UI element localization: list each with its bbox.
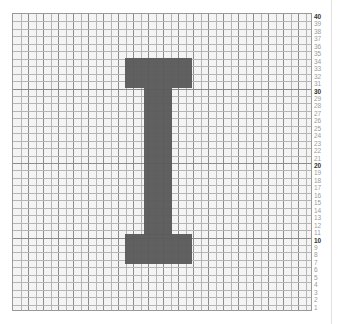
row-label: 27 bbox=[314, 110, 330, 117]
row-label: 29 bbox=[314, 95, 330, 102]
grid-row-line bbox=[13, 44, 311, 45]
row-label: 8 bbox=[314, 251, 330, 258]
letter-top-bar bbox=[125, 58, 192, 88]
row-label: 25 bbox=[314, 125, 330, 132]
grid-row-line bbox=[13, 36, 311, 37]
row-label: 13 bbox=[314, 214, 330, 221]
row-label: 12 bbox=[314, 222, 330, 229]
row-label: 16 bbox=[314, 192, 330, 199]
row-label: 37 bbox=[314, 35, 330, 42]
grid-row-line bbox=[13, 305, 311, 306]
grid-row-line bbox=[13, 297, 311, 298]
row-label: 21 bbox=[314, 155, 330, 162]
row-label: 19 bbox=[314, 169, 330, 176]
row-label: 6 bbox=[314, 266, 330, 273]
row-label: 3 bbox=[314, 289, 330, 296]
grid-row-line bbox=[13, 21, 311, 22]
row-label: 9 bbox=[314, 244, 330, 251]
row-label: 24 bbox=[314, 132, 330, 139]
grid-row-line bbox=[13, 29, 311, 30]
letter-bottom-bar bbox=[125, 234, 192, 264]
row-label: 40 bbox=[314, 13, 330, 20]
row-label: 28 bbox=[314, 102, 330, 109]
row-label: 17 bbox=[314, 184, 330, 191]
grid-row-line bbox=[13, 282, 311, 283]
divider bbox=[331, 0, 332, 324]
row-label: 33 bbox=[314, 65, 330, 72]
grid-row-line bbox=[13, 267, 311, 268]
row-label: 5 bbox=[314, 274, 330, 281]
row-label: 32 bbox=[314, 73, 330, 80]
row-label: 18 bbox=[314, 177, 330, 184]
row-label: 2 bbox=[314, 296, 330, 303]
grid-row-line bbox=[13, 275, 311, 276]
row-label: 15 bbox=[314, 199, 330, 206]
row-label: 20 bbox=[314, 162, 330, 169]
row-label: 22 bbox=[314, 147, 330, 154]
row-label: 31 bbox=[314, 80, 330, 87]
row-label: 11 bbox=[314, 229, 330, 236]
chart-grid bbox=[12, 13, 312, 311]
row-label: 26 bbox=[314, 117, 330, 124]
row-label: 38 bbox=[314, 28, 330, 35]
row-label: 23 bbox=[314, 140, 330, 147]
row-label: 30 bbox=[314, 88, 330, 95]
grid-row-line bbox=[13, 51, 311, 52]
row-label: 7 bbox=[314, 259, 330, 266]
row-label: 34 bbox=[314, 58, 330, 65]
letter-stem bbox=[144, 88, 172, 235]
row-label: 1 bbox=[314, 304, 330, 311]
row-label: 14 bbox=[314, 207, 330, 214]
row-label: 35 bbox=[314, 50, 330, 57]
row-label: 4 bbox=[314, 281, 330, 288]
grid-row-line bbox=[13, 290, 311, 291]
row-label: 36 bbox=[314, 43, 330, 50]
row-label: 10 bbox=[314, 237, 330, 244]
row-label: 39 bbox=[314, 20, 330, 27]
